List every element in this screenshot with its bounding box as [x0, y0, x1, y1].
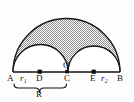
label-point-e: E: [90, 74, 96, 83]
label-radius-r1: r₁: [20, 74, 27, 83]
label-point-a: A: [7, 74, 14, 83]
label-radius-capital-r: R: [36, 90, 42, 99]
label-point-d: D: [36, 74, 43, 83]
arbelos-figure: A r₁ D C O E r₂ B R: [0, 0, 134, 102]
label-point-b: B: [117, 74, 123, 83]
label-point-c: C: [64, 74, 70, 83]
label-radius-r2: r₂: [101, 74, 108, 83]
geometry-canvas: [0, 0, 134, 102]
label-point-o: O: [63, 61, 70, 70]
